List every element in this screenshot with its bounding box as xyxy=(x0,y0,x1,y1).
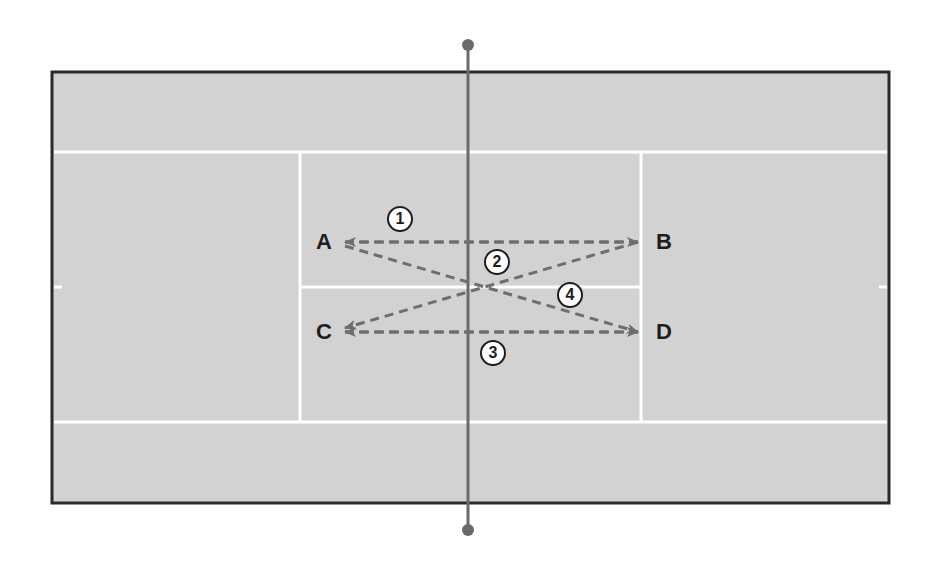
net-post-bottom-icon xyxy=(462,524,474,536)
position-label-a: A xyxy=(316,229,332,255)
court-svg xyxy=(0,0,935,565)
position-label-c: C xyxy=(316,319,332,345)
net-post-top-icon xyxy=(462,39,474,51)
tennis-court-diagram: A B C D 1 2 3 4 xyxy=(0,0,935,565)
step-badge-1: 1 xyxy=(387,206,413,232)
step-badge-3: 3 xyxy=(480,340,506,366)
step-badge-2: 2 xyxy=(484,249,510,275)
step-badge-4: 4 xyxy=(557,282,583,308)
position-label-b: B xyxy=(656,229,672,255)
position-label-d: D xyxy=(656,319,672,345)
